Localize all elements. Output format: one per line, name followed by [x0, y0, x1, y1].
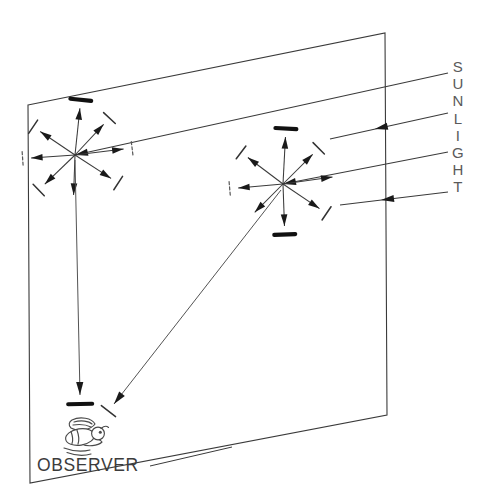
- ray-to-observer-diagonal-pol-bar: [101, 406, 115, 417]
- right-r-ray-w-arrowhead: [238, 184, 250, 191]
- right-r-ray-se-pol-bar: [322, 207, 331, 220]
- diagram-canvas: [0, 0, 493, 495]
- right-r-ray-se-arrowhead: [308, 199, 319, 208]
- sunlight-label-char-0: S: [453, 59, 463, 76]
- sunlight-label-char-7: T: [453, 179, 462, 196]
- right-r-ray-w-pol-bar: [229, 182, 230, 196]
- left-l-ray-e-arrowhead: [112, 147, 124, 154]
- left-l-ray-w-pol-bar: [22, 152, 23, 166]
- sun-ray-4: [340, 192, 448, 205]
- sunlight-label-char-6: H: [452, 162, 463, 179]
- left-l-ray-se-arrowhead: [100, 169, 111, 178]
- observer-label: OBSERVER: [37, 455, 139, 476]
- left-l-ray-s-arrowhead: [71, 183, 78, 195]
- sun-ray-3: [283, 152, 448, 184]
- sun-ray-2-arrowhead: [375, 123, 388, 130]
- left-l-ray-n-pol-bar: [70, 99, 91, 101]
- observer-ray-group: [68, 160, 281, 417]
- left-l-ray-w-arrowhead: [31, 154, 43, 161]
- right-r-ray-n-pol-bar: [275, 128, 296, 129]
- sun-ray-2: [330, 113, 448, 139]
- left-l-ray-se-pol-bar: [114, 176, 123, 189]
- left-l-ray-nw-arrowhead: [40, 132, 51, 141]
- right-r-ray-nw-arrowhead: [248, 158, 259, 168]
- left-l-ray-n-arrowhead: [75, 108, 82, 120]
- sunlight-label-char-2: N: [452, 93, 463, 110]
- right-r-ray-s-pol-bar: [274, 234, 295, 235]
- left-l-ray-e-pol-bar: [131, 141, 133, 155]
- right-r-ray-ne-pol-bar: [313, 143, 324, 154]
- sunlight-ray-group: [75, 73, 448, 205]
- right-scatter-star: [229, 128, 332, 235]
- observer-leader-line: [150, 447, 232, 466]
- left-l-ray-nw-pol-bar: [29, 120, 38, 133]
- ray-to-observer-diagonal-arrowhead: [114, 392, 125, 404]
- sunlight-label-char-3: L: [454, 111, 462, 128]
- bee-icon: [64, 418, 109, 455]
- sunlight-label-char-4: I: [456, 128, 460, 145]
- left-l-ray-ne-pol-bar: [104, 113, 116, 124]
- left-scatter-star: [22, 99, 133, 196]
- sun-ray-4-arrowhead: [381, 195, 394, 202]
- ray-to-observer-vertical-pol-bar: [68, 404, 92, 405]
- ray-to-observer-vertical-arrowhead: [76, 382, 83, 395]
- sunlight-label-char-1: U: [452, 76, 463, 93]
- ray-to-observer-vertical-shaft: [75, 160, 80, 395]
- polarized-skylight-figure: SUNLIGHT OBSERVER: [0, 0, 493, 495]
- right-r-ray-e-arrowhead: [321, 175, 333, 182]
- left-l-ray-sw-pol-bar: [33, 184, 44, 196]
- right-r-ray-s-arrowhead: [281, 214, 288, 226]
- sunlight-label: SUNLIGHT: [452, 59, 464, 197]
- ray-to-observer-diagonal-shaft: [114, 190, 281, 404]
- right-r-ray-nw-pol-bar: [236, 146, 246, 159]
- sunlight-label-char-5: G: [452, 145, 464, 162]
